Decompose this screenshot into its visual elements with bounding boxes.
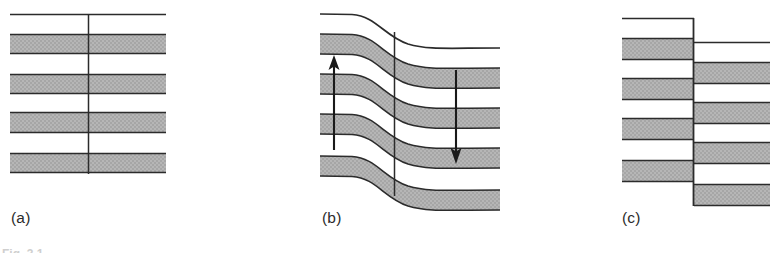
panel-c-right-bed-2 bbox=[694, 102, 770, 124]
panel-a-undeformed-strata bbox=[10, 14, 166, 174]
panel-b-folded-strata bbox=[320, 14, 500, 210]
panel-c-faulted-strata bbox=[622, 18, 770, 206]
panel-b-uplift-arrow bbox=[329, 55, 340, 150]
panel-label-b: (b) bbox=[322, 209, 342, 227]
panel-c-left-bed-1 bbox=[622, 38, 694, 60]
panel-c-right-bed-3 bbox=[694, 142, 770, 164]
figure-container: (a) (b) (c) Fig. 3.1 bbox=[0, 0, 770, 253]
panel-c-left-bed-4 bbox=[622, 160, 694, 182]
panel-c-right-bed-4 bbox=[694, 184, 770, 206]
panel-c-left-bed-3 bbox=[622, 118, 694, 140]
panel-label-a: (a) bbox=[11, 209, 31, 227]
panel-c-left-bed-2 bbox=[622, 78, 694, 100]
strata-diagram-canvas bbox=[0, 0, 770, 253]
panel-c-right-bed-1 bbox=[694, 62, 770, 84]
panel-c-right-block bbox=[694, 43, 770, 207]
panel-label-c: (c) bbox=[622, 209, 641, 227]
panel-c-left-block bbox=[622, 19, 694, 183]
figure-caption-sliver: Fig. 3.1 bbox=[2, 243, 232, 253]
